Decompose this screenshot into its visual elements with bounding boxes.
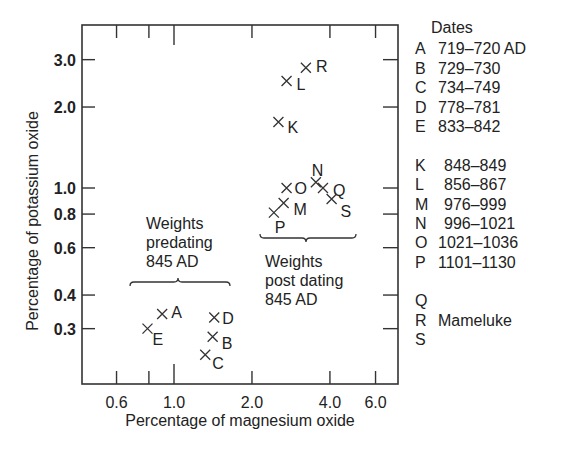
annotation-postdating-line1: Weights xyxy=(265,253,323,270)
legend-row: M976–999 xyxy=(415,195,526,214)
point-label: R xyxy=(316,58,328,75)
legend-key: A xyxy=(415,39,438,58)
x-marker-icon xyxy=(279,198,289,208)
legend-key: R xyxy=(415,311,438,330)
y-tick-label: 0.4 xyxy=(54,287,76,304)
legend-row: C734–749 xyxy=(415,78,526,97)
brace-predating xyxy=(130,278,230,286)
legend-row: N996–1021 xyxy=(415,214,526,233)
point-label: B xyxy=(222,335,233,352)
x-marker-icon xyxy=(327,194,337,204)
point-label: A xyxy=(171,304,182,321)
annotation-predating-line1: Weights xyxy=(146,215,204,232)
legend-value: 778–781 xyxy=(438,98,500,117)
annotation-postdating-line3: 845 AD xyxy=(265,291,317,308)
annotation-predating-line2: predating xyxy=(146,234,213,251)
legend-key: B xyxy=(415,59,438,78)
legend-value: 1101–1130 xyxy=(438,253,516,272)
point-label: P xyxy=(275,219,286,236)
x-marker-icon xyxy=(301,63,311,73)
legend-row: P1101–1130 xyxy=(415,253,526,272)
y-tick-label: 3.0 xyxy=(54,52,76,69)
y-axis-ticks xyxy=(82,60,398,329)
legend-value: 996–1021 xyxy=(438,214,515,233)
x-tick-label: 0.6 xyxy=(105,394,127,411)
dates-legend: Dates A719–720 AD B729–730 C734–749 D778… xyxy=(415,18,526,350)
annotation-postdating-line2: post dating xyxy=(265,272,343,289)
data-point-c: C xyxy=(200,350,224,372)
legend-group-early: A719–720 AD B729–730 C734–749 D778–781 E… xyxy=(415,39,526,136)
x-marker-icon xyxy=(282,76,292,86)
y-tick-label: 2.0 xyxy=(54,99,76,116)
legend-key: K xyxy=(415,156,438,175)
point-label: D xyxy=(222,310,234,327)
x-marker-icon xyxy=(269,208,279,218)
x-marker-icon xyxy=(318,183,328,193)
x-marker-icon xyxy=(282,183,292,193)
x-axis-label: Percentage of magnesium oxide xyxy=(125,412,355,429)
data-point-b: B xyxy=(208,332,233,352)
legend-row: A719–720 AD xyxy=(415,39,526,58)
legend-group-mameluke: Q RMameluke S xyxy=(415,291,526,349)
point-label: L xyxy=(297,76,306,93)
legend-value: 833–842 xyxy=(438,117,500,136)
legend-key: M xyxy=(415,195,438,214)
legend-value: 729–730 xyxy=(438,59,500,78)
data-point-p: P xyxy=(269,208,286,236)
y-tick-label: 0.3 xyxy=(54,321,76,338)
legend-key: S xyxy=(415,330,438,349)
x-tick-label: 1.0 xyxy=(163,394,185,411)
legend-key: Q xyxy=(415,291,438,310)
legend-title: Dates xyxy=(431,18,526,37)
x-marker-icon xyxy=(273,117,283,127)
y-tick-label: 0.8 xyxy=(54,206,76,223)
data-point-l: L xyxy=(282,76,306,93)
legend-row: E833–842 xyxy=(415,117,526,136)
legend-key: P xyxy=(415,253,438,272)
point-label: C xyxy=(212,355,224,372)
data-point-q: Q xyxy=(318,182,345,199)
legend-value: 976–999 xyxy=(438,195,506,214)
point-label: M xyxy=(294,201,307,218)
legend-key: C xyxy=(415,78,438,97)
x-marker-icon xyxy=(200,350,210,360)
legend-key: D xyxy=(415,98,438,117)
x-marker-icon xyxy=(208,332,218,342)
legend-row: S xyxy=(415,330,526,349)
legend-key: E xyxy=(415,117,438,136)
data-point-m: M xyxy=(279,198,307,218)
point-label: E xyxy=(152,331,163,348)
point-label: O xyxy=(295,180,307,197)
y-tick-label: 0.6 xyxy=(54,240,76,257)
legend-row: B729–730 xyxy=(415,59,526,78)
y-axis-label: Percentage of potassium oxide xyxy=(24,111,41,331)
legend-key: L xyxy=(415,175,438,194)
legend-value: 856–867 xyxy=(438,175,506,194)
x-marker-icon xyxy=(142,324,152,334)
legend-group-late: K848–849 L856–867 M976–999 N996–1021 O10… xyxy=(415,156,526,272)
x-axis-tick-labels: 0.61.02.04.06.0 xyxy=(105,394,386,411)
legend-row: L856–867 xyxy=(415,175,526,194)
legend-key: O xyxy=(415,233,438,252)
legend-value: 719–720 AD xyxy=(438,39,526,58)
point-label: K xyxy=(287,119,298,136)
legend-value: 848–849 xyxy=(438,156,506,175)
legend-key: N xyxy=(415,214,438,233)
point-label: N xyxy=(312,162,324,179)
y-tick-label: 1.0 xyxy=(54,180,76,197)
data-point-a: A xyxy=(157,304,182,321)
legend-row: Q xyxy=(415,291,526,310)
x-marker-icon xyxy=(157,309,167,319)
legend-value: 1021–1036 xyxy=(438,233,518,252)
legend-value: Mameluke xyxy=(438,311,512,330)
point-label: S xyxy=(341,203,352,220)
data-point-o: O xyxy=(282,180,307,197)
y-axis-tick-labels: 0.30.40.60.81.02.03.0 xyxy=(54,52,76,338)
legend-row: RMameluke xyxy=(415,311,526,330)
x-tick-label: 2.0 xyxy=(241,394,263,411)
legend-value: 734–749 xyxy=(438,78,500,97)
annotation-predating-line3: 845 AD xyxy=(146,253,198,270)
data-point-e: E xyxy=(142,324,163,348)
data-point-k: K xyxy=(273,117,298,136)
data-point-d: D xyxy=(209,310,234,327)
